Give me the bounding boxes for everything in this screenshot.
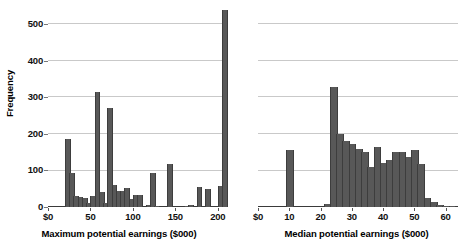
histogram-bar xyxy=(222,10,228,207)
y-axis-label-left: Frequency xyxy=(4,54,15,134)
x-axis-tick-mark xyxy=(175,208,176,211)
gridline xyxy=(48,23,228,24)
x-axis-tick-label: 10 xyxy=(274,212,304,222)
histogram-bar xyxy=(167,164,173,207)
x-axis-tick-label: $0 xyxy=(33,212,63,222)
x-axis-tick-label: 30 xyxy=(337,212,367,222)
x-axis-tick-label: 50 xyxy=(399,212,429,222)
gridline xyxy=(48,60,228,61)
histogram-bar xyxy=(137,195,143,207)
x-axis-tick-mark xyxy=(321,208,322,211)
x-axis-tick-label: 150 xyxy=(160,212,190,222)
histogram-bar xyxy=(188,205,194,207)
y-axis-tick-label: 200 xyxy=(17,129,43,139)
x-axis-tick-label: 50 xyxy=(75,212,105,222)
gridline xyxy=(48,96,228,97)
y-axis-tick-label: 400 xyxy=(17,56,43,66)
x-axis-label-left: Maximum potential earnings ($000) xyxy=(0,228,238,239)
gridline xyxy=(258,96,458,97)
y-axis-tick-mark xyxy=(44,61,48,62)
y-axis-tick-mark xyxy=(44,170,48,171)
x-axis-tick-mark xyxy=(289,208,290,211)
gridline xyxy=(258,60,458,61)
histogram-bar xyxy=(150,173,156,207)
y-axis-tick-label: 300 xyxy=(17,92,43,102)
x-axis-label-right: Median potential earnings ($000) xyxy=(238,228,475,239)
x-axis-tick-label: 40 xyxy=(368,212,398,222)
x-axis-tick-mark xyxy=(48,208,49,211)
chart-panel-left: Frequency Maximum potential earnings ($0… xyxy=(0,0,238,251)
histogram-bar xyxy=(154,206,160,207)
histogram-bar xyxy=(449,206,457,207)
gridline xyxy=(258,23,458,24)
gridline xyxy=(258,133,458,134)
x-axis-tick-mark xyxy=(383,208,384,211)
y-axis-tick-mark xyxy=(44,134,48,135)
x-axis-tick-mark xyxy=(446,208,447,211)
y-axis-tick-label: 500 xyxy=(17,19,43,29)
y-axis-tick-mark xyxy=(44,97,48,98)
figure-root: Frequency Maximum potential earnings ($0… xyxy=(0,0,475,251)
y-axis-tick-mark xyxy=(44,24,48,25)
histogram-bar xyxy=(205,189,211,207)
histogram-bar xyxy=(286,150,294,207)
y-axis-tick-label: 100 xyxy=(17,165,43,175)
gridline xyxy=(48,133,228,134)
x-axis-tick-mark xyxy=(90,208,91,211)
x-axis-tick-mark xyxy=(133,208,134,211)
x-axis-tick-label: 20 xyxy=(306,212,336,222)
gridline xyxy=(48,170,228,171)
x-axis-tick-mark xyxy=(258,208,259,211)
plot-area-right xyxy=(258,8,458,207)
x-axis-tick-mark xyxy=(218,208,219,211)
y-axis-tick-label: 0 xyxy=(17,202,43,212)
histogram-bar xyxy=(95,92,101,207)
x-axis-tick-label: 100 xyxy=(118,212,148,222)
x-axis-tick-label: 200 xyxy=(203,212,233,222)
chart-panel-right: Median potential earnings ($000) $010203… xyxy=(238,0,475,251)
plot-area-left xyxy=(48,8,228,207)
x-axis-tick-label: $0 xyxy=(243,212,273,222)
x-axis-tick-mark xyxy=(414,208,415,211)
x-axis-tick-label: 60 xyxy=(431,212,461,222)
x-axis-tick-mark xyxy=(352,208,353,211)
histogram-bar xyxy=(197,187,203,207)
